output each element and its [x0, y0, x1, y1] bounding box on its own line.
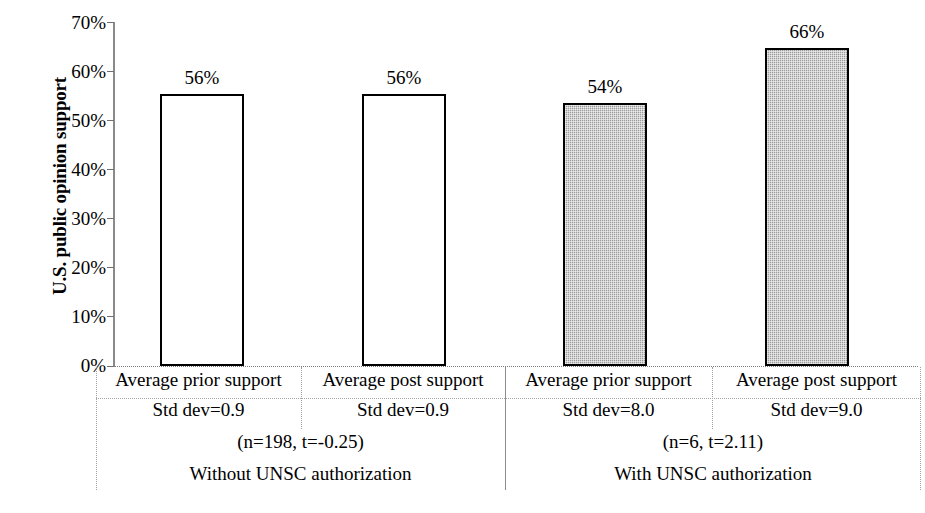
- cell-stats-with-unsc: (n=6, t=2.11): [505, 432, 921, 458]
- y-tick-label-70: 70%: [46, 13, 106, 32]
- y-tick-label-20: 20%: [46, 258, 106, 277]
- bar-chart: U.S. public opinion support 70% 60% 50% …: [0, 0, 925, 513]
- cell-std-dev-without-post: Std dev=0.9: [301, 400, 505, 426]
- cell-std-dev-with-prior: Std dev=8.0: [505, 400, 712, 426]
- table-rule-row1: [96, 398, 921, 399]
- bar-with-prior: [563, 103, 647, 366]
- y-tick-label-40: 40%: [46, 160, 106, 179]
- cell-category-with-prior: Average prior support: [505, 370, 712, 396]
- cell-category-without-prior: Average prior support: [96, 370, 301, 396]
- y-tick-mark-40: [107, 169, 114, 170]
- y-tick-mark-20: [107, 267, 114, 268]
- bar-without-post: [362, 94, 446, 366]
- y-tick-mark-30: [107, 218, 114, 219]
- bar-value-with-post: 66%: [765, 22, 849, 42]
- y-tick-label-30: 30%: [46, 209, 106, 228]
- category-data-table: Average prior support Average post suppo…: [96, 367, 921, 513]
- y-tick-mark-60: [107, 71, 114, 72]
- cell-std-dev-with-post: Std dev=9.0: [712, 400, 921, 426]
- table-row-std-dev: Std dev=0.9 Std dev=0.9 Std dev=8.0 Std …: [96, 400, 921, 426]
- cell-stats-without-unsc: (n=198, t=-0.25): [96, 432, 505, 458]
- y-tick-mark-70: [107, 22, 114, 23]
- table-row-stats: (n=198, t=-0.25) (n=6, t=2.11): [96, 432, 921, 458]
- table-row-categories: Average prior support Average post suppo…: [96, 370, 921, 396]
- cell-std-dev-without-prior: Std dev=0.9: [96, 400, 301, 426]
- y-tick-label-60: 60%: [46, 62, 106, 81]
- cell-group-name-without-unsc: Without UNSC authorization: [96, 464, 505, 490]
- bar-value-without-post: 56%: [362, 68, 446, 88]
- y-tick-mark-50: [107, 120, 114, 121]
- cell-category-with-post: Average post support: [712, 370, 921, 396]
- bar-with-post: [765, 48, 849, 366]
- bar-value-with-prior: 54%: [563, 77, 647, 97]
- bar-value-without-prior: 56%: [160, 68, 244, 88]
- bar-without-prior: [160, 94, 244, 366]
- cell-group-name-with-unsc: With UNSC authorization: [505, 464, 921, 490]
- y-tick-label-50: 50%: [46, 111, 106, 130]
- y-tick-mark-10: [107, 316, 114, 317]
- y-tick-label-10: 10%: [46, 307, 106, 326]
- table-row-group-names: Without UNSC authorization With UNSC aut…: [96, 464, 921, 490]
- cell-category-without-post: Average post support: [301, 370, 505, 396]
